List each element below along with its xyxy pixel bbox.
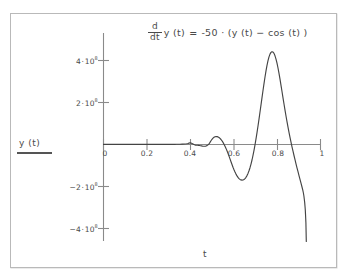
y-tick-label-neg4e8: −4·108 xyxy=(54,223,98,234)
derivative-fraction: d dt xyxy=(148,22,162,43)
solution-curve xyxy=(104,52,307,242)
x-tick-label-0: 0 xyxy=(99,149,111,158)
equation-label: d dt y (t) = -50 · (y (t) − cos (t) ) xyxy=(148,22,308,43)
x-tick-label-0p6: 0.6 xyxy=(224,149,244,158)
y-tick-mantissa: −2 xyxy=(70,183,81,192)
y-axis-label-underline xyxy=(17,152,52,154)
y-tick-label-2e8: 2·108 xyxy=(58,97,98,108)
y-tick-base: 10 xyxy=(85,183,95,192)
y-tick-base: 10 xyxy=(85,225,95,234)
y-axis-label: y (t) xyxy=(19,138,40,148)
x-axis-label: t xyxy=(203,249,207,259)
y-tick-mantissa: −4 xyxy=(70,225,81,234)
plot-root: d dt y (t) = -50 · (y (t) − cos (t) ) y … xyxy=(0,0,349,279)
equation-left-function: y (t) xyxy=(164,27,185,38)
x-tick-label-0p8: 0.8 xyxy=(268,149,288,158)
derivative-denominator: dt xyxy=(148,33,162,42)
x-tick-label-0p4: 0.4 xyxy=(180,149,200,158)
y-tick-exponent: 8 xyxy=(95,55,98,61)
x-tick-label-1: 1 xyxy=(316,149,328,158)
y-tick-exponent: 8 xyxy=(95,223,98,229)
y-tick-exponent: 8 xyxy=(95,97,98,103)
equation-relation: = xyxy=(189,27,197,38)
y-tick-base: 10 xyxy=(85,57,95,66)
y-tick-base: 10 xyxy=(85,99,95,108)
equation-right-side: -50 · (y (t) − cos (t) ) xyxy=(201,27,307,38)
y-tick-label-4e8: 4·108 xyxy=(58,55,98,66)
x-tick-label-0p2: 0.2 xyxy=(137,149,157,158)
y-tick-label-neg2e8: −2·108 xyxy=(54,181,98,192)
derivative-numerator: d xyxy=(150,22,160,31)
y-tick-exponent: 8 xyxy=(95,181,98,187)
